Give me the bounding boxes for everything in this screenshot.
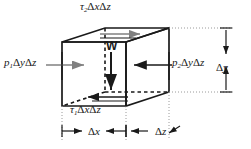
label-delta-x: Δx [88,126,100,137]
label-delta-z: Δz [155,126,166,137]
dimension-arrow-dz [126,125,180,137]
label-tau2-shear-stress: τ2ΔxΔz [80,1,111,14]
label-p1-pressure-force: p1ΔyΔz [4,57,36,70]
p2-pressure-arrow [134,52,172,80]
label-tau1-shear-stress: τ1ΔxΔz [70,104,101,117]
tau2-shear-arrow [100,34,140,38]
tau1-shear-arrow [88,97,128,101]
label-delta-y: Δy [216,62,228,73]
fluid-element-free-body-diagram: τ2ΔxΔz τ1ΔxΔz p1ΔyΔz p2ΔyΔz W Δy Δx Δz [0,0,251,149]
label-weight: W [106,40,117,52]
diagram-canvas [0,0,251,149]
label-p2-pressure-force: p2ΔyΔz [172,57,204,70]
p1-pressure-arrow [46,52,84,80]
dimension-arrow-dy [220,28,232,92]
